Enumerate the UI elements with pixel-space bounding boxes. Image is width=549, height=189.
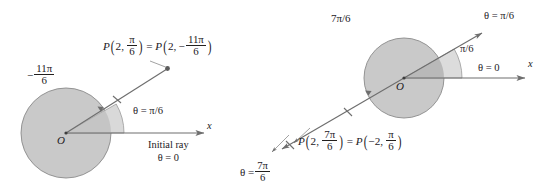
rotation-sign-left: − [27,69,33,81]
point-label-right: P(2, 7π 6 ) = P(−2, π 6 ) [298,129,403,152]
rotation-label-right: 7π/6 [331,12,351,24]
theta-equals-right: θ = [240,166,254,178]
ray-label-right: θ = π/6 [484,10,514,21]
p-symbol-3: P [298,135,305,147]
p-symbol-2: P [155,40,162,52]
theta-fraction-3: 7π 6 [322,129,337,152]
initial-ray-theta-right: θ = 0 [478,62,500,73]
rotation-fraction-left: 11π 6 [34,63,54,86]
opposite-ray-fraction: 7π 6 [255,160,270,183]
opposite-ray-label-right: θ = 7π 6 [240,160,271,183]
origin-label-right: O [396,80,404,92]
p-symbol-4: P [356,135,363,147]
negative-sign-1: − [179,40,185,52]
initial-ray-theta-left: θ = 0 [148,152,189,165]
angle-label-right: π/6 [460,43,474,54]
p-symbol-1: P [103,40,110,52]
angle-label-left: θ = π/6 [133,105,163,116]
radius-1: 2 [116,40,122,52]
initial-ray-caption-left: Initial ray θ = 0 [148,139,189,164]
theta-label-leader-right [272,135,289,152]
radius-2: 2 [168,40,174,52]
rotation-label-left: − 11π 6 [27,63,55,86]
equals-sign-2: = [347,135,353,147]
radius-4: −2 [368,135,380,147]
theta-fraction-4: π 6 [386,129,395,152]
point-P-left [165,66,170,71]
initial-ray-text-left: Initial ray [148,139,189,152]
polar-coordinates-figure [0,0,549,189]
p-label-leader-left [150,61,166,67]
origin-label-left: O [57,134,65,146]
radius-3: 2 [311,135,317,147]
theta-fraction-1: π 6 [127,34,136,57]
x-axis-label-right: x [528,58,533,69]
point-label-left: P(2, π 6 ) = P(2, − 11π 6 ) [103,34,213,57]
theta-fraction-2: 11π 6 [186,34,206,57]
equals-sign-1: = [146,40,152,52]
x-axis-label-left: x [207,120,212,131]
